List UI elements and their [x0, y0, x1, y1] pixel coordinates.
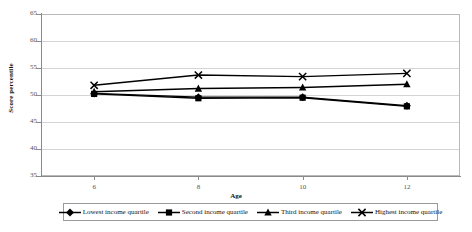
y-axis-tick — [36, 41, 41, 42]
legend-label: Third income quartile — [281, 208, 342, 216]
line-chart-figure: 65605550454035 Score percentile Age Lowe… — [0, 0, 472, 232]
legend-marker-diamond-icon — [59, 208, 81, 217]
x-axis-tick-label: 10 — [288, 183, 318, 191]
x-axis-tick — [94, 176, 95, 180]
legend-item-2[interactable]: Second income quartile — [158, 208, 248, 217]
legend-item-1[interactable]: Lowest income quartile — [59, 208, 149, 217]
legend-marker-cross-icon — [351, 208, 373, 217]
gridline — [42, 41, 459, 42]
y-axis-tick-label: 35 — [13, 172, 37, 179]
gridline — [42, 68, 459, 69]
y-axis-tick — [36, 95, 41, 96]
gridline — [42, 122, 459, 123]
legend-label: Second income quartile — [182, 208, 248, 216]
x-axis-tick — [407, 176, 408, 180]
y-axis-tick-label: 55 — [13, 64, 37, 71]
x-axis-line — [41, 176, 461, 177]
x-axis-tick — [198, 176, 199, 180]
legend-item-4[interactable]: Highest income quartile — [351, 208, 442, 217]
x-axis-tick-label: 12 — [392, 183, 422, 191]
x-axis-title: Age — [0, 192, 472, 200]
x-axis-tick-label: 6 — [79, 183, 109, 191]
y-axis-tick-label: 40 — [13, 145, 37, 152]
plot-area — [41, 14, 460, 176]
y-axis-line — [41, 13, 42, 177]
y-axis-tick — [36, 14, 41, 15]
data-point-square — [166, 209, 172, 215]
y-axis-tick-label: 45 — [13, 118, 37, 125]
legend-marker-triangle-icon — [257, 208, 279, 217]
legend-label: Lowest income quartile — [83, 208, 149, 216]
gridline — [42, 149, 459, 150]
y-axis-title: Score percentile — [7, 53, 15, 123]
x-axis-tick-label: 8 — [183, 183, 213, 191]
x-axis-tick — [303, 176, 304, 180]
y-axis-tick-label: 50 — [13, 91, 37, 98]
y-axis-tick — [36, 149, 41, 150]
legend-marker-square-icon — [158, 208, 180, 217]
y-axis-tick — [36, 176, 41, 177]
data-point-diamond — [66, 208, 74, 216]
y-axis-tick — [36, 68, 41, 69]
y-axis-tick — [36, 122, 41, 123]
gridline — [42, 95, 459, 96]
legend-label: Highest income quartile — [375, 208, 442, 216]
y-axis-tick-label: 65 — [13, 10, 37, 17]
legend-item-3[interactable]: Third income quartile — [257, 208, 342, 217]
chart-legend: Lowest income quartileSecond income quar… — [63, 203, 438, 221]
y-axis-tick-label: 60 — [13, 37, 37, 44]
